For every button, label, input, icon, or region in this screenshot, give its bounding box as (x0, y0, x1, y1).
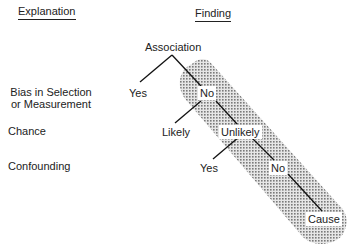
explanation-bias-line1: Bias in Selection (8, 86, 94, 98)
node-unlikely: Unlikely (219, 125, 262, 139)
explanation-bias: Bias in Selection or Measurement (8, 86, 94, 110)
node-yes-bias: Yes (127, 86, 149, 100)
finding-header: Finding (195, 7, 231, 22)
node-association: Association (143, 40, 203, 54)
node-no-confounding: No (269, 161, 287, 175)
node-yes-confounding: Yes (198, 161, 220, 175)
node-likely: Likely (160, 125, 192, 139)
explanation-bias-line2: or Measurement (8, 98, 94, 110)
explanation-header: Explanation (18, 5, 76, 20)
explanation-chance: Chance (8, 125, 46, 137)
explanation-confounding: Confounding (8, 160, 70, 172)
node-no-bias: No (198, 86, 216, 100)
node-cause: Cause (306, 212, 342, 226)
